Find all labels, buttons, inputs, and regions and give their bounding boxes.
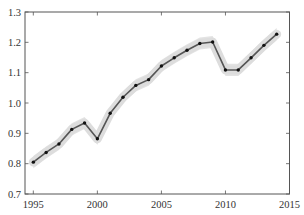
data-point-2011 — [237, 68, 240, 71]
y-axis-tick-labels: 0.70.80.91.01.11.21.3 — [8, 7, 21, 200]
y-tick-label: 0.7 — [8, 189, 21, 200]
data-point-1995 — [32, 160, 35, 163]
data-point-2001 — [108, 112, 111, 115]
data-point-2010 — [224, 68, 227, 71]
data-point-2000 — [96, 137, 99, 140]
data-point-2007 — [185, 49, 188, 52]
y-tick-label: 0.9 — [8, 128, 21, 139]
data-point-2012 — [249, 56, 252, 59]
y-tick-label: 0.8 — [8, 158, 21, 169]
x-tick-label: 2000 — [87, 199, 108, 210]
band-halo — [33, 34, 276, 162]
y-tick-label: 1.0 — [8, 98, 21, 109]
data-point-2003 — [134, 84, 137, 87]
y-tick-label: 1.1 — [8, 67, 21, 78]
x-tick-label: 2010 — [215, 199, 236, 210]
confidence-band — [33, 28, 276, 168]
x-tick-label: 2005 — [151, 199, 172, 210]
x-tick-label: 2015 — [279, 199, 300, 210]
band-area — [33, 28, 276, 168]
plot-frame — [25, 12, 290, 194]
data-point-2004 — [147, 78, 150, 81]
data-point-2002 — [121, 96, 124, 99]
data-point-1996 — [44, 151, 47, 154]
data-markers — [32, 32, 279, 163]
data-point-1998 — [70, 128, 73, 131]
data-point-2005 — [160, 64, 163, 67]
data-point-2014 — [275, 32, 278, 35]
data-point-2006 — [173, 56, 176, 59]
data-line — [33, 34, 276, 162]
series-line — [33, 34, 276, 162]
y-tick-label: 1.3 — [8, 7, 21, 18]
line-chart: 19952000200520102015 0.70.80.91.01.11.21… — [0, 0, 304, 215]
data-point-2008 — [198, 42, 201, 45]
data-point-1999 — [83, 121, 86, 124]
data-point-2013 — [262, 44, 265, 47]
x-tick-label: 1995 — [23, 199, 44, 210]
axis-ticks — [25, 12, 290, 194]
data-point-2009 — [211, 40, 214, 43]
data-point-1997 — [57, 142, 60, 145]
x-axis-tick-labels: 19952000200520102015 — [23, 199, 300, 210]
y-tick-label: 1.2 — [8, 37, 21, 48]
chart-canvas: 19952000200520102015 0.70.80.91.01.11.21… — [0, 0, 304, 215]
